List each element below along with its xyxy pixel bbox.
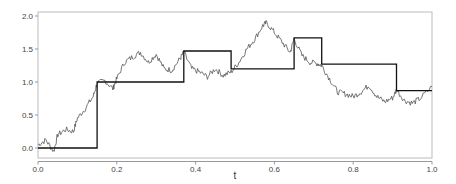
x-tick-label: 0.2 [111, 165, 123, 174]
chart: 0.00.51.01.52.0 0.00.20.40.60.81.0 t [0, 0, 456, 184]
y-tick-label: 1.5 [22, 45, 34, 54]
y-axis: 0.00.51.01.52.0 [22, 12, 38, 153]
y-tick-label: 0.5 [22, 111, 34, 120]
x-axis-title: t [234, 170, 237, 181]
x-tick-label: 0.4 [190, 165, 202, 174]
x-tick-label: 1.0 [426, 165, 438, 174]
x-tick-label: 0.6 [269, 165, 281, 174]
y-tick-label: 1.0 [22, 78, 34, 87]
y-tick-label: 0.0 [22, 144, 34, 153]
x-tick-label: 0.0 [32, 165, 44, 174]
y-tick-label: 2.0 [22, 12, 34, 21]
x-tick-label: 0.8 [348, 165, 360, 174]
